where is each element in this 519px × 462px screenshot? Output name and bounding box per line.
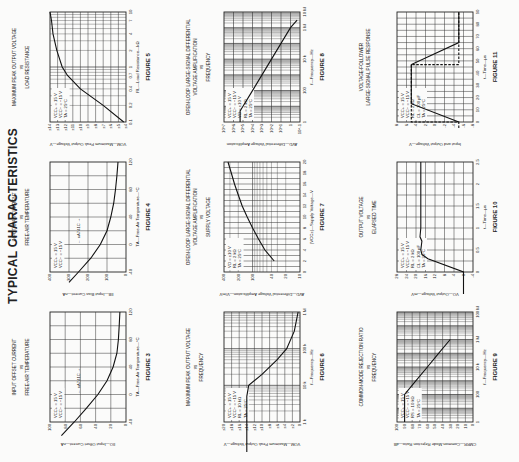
svg-text:1: 1 [128, 65, 133, 68]
svg-text:±6: ±6 [275, 423, 280, 428]
svg-text:IIO—Input Offset Current—nA: IIO—Input Offset Current—nA [60, 442, 115, 447]
svg-text:40: 40 [128, 364, 133, 369]
svg-text:COMMON-MODE REJECTION RATIO: COMMON-MODE REJECTION RATIO [359, 327, 364, 406]
svg-text:16: 16 [302, 181, 307, 186]
svg-text:16: 16 [423, 273, 428, 278]
svg-text:12: 12 [432, 273, 437, 278]
svg-text:0: 0 [475, 270, 480, 273]
svg-text:2: 2 [302, 259, 307, 262]
svg-text:14: 14 [302, 192, 307, 197]
svg-text:AVD—Differential Voltage Ampli: AVD—Differential Voltage Amplification—V… [219, 292, 304, 297]
svg-text:±9: ±9 [85, 123, 90, 128]
svg-text:0.1: 0.1 [128, 118, 133, 124]
svg-text:10 k: 10 k [302, 54, 307, 63]
svg-text:80: 80 [475, 21, 480, 26]
svg-text:0.4: 0.4 [128, 85, 133, 91]
svg-text:40: 40 [128, 214, 133, 219]
figure-10: OUTPUT VOLTAGEvsELAPSED TIME00.511.522.5… [355, 152, 505, 302]
svg-text:TA—Free-Air Temperature—°C: TA—Free-Air Temperature—°C [135, 187, 140, 246]
svg-text:20: 20 [455, 423, 460, 428]
svg-text:10^2: 10^2 [269, 123, 274, 133]
svg-text:7: 7 [128, 19, 133, 22]
svg-text:OPEN-LOOP LARGE-SIGNAL DIFFERE: OPEN-LOOP LARGE-SIGNAL DIFFERENTIAL [186, 168, 191, 265]
svg-text:vs: vs [199, 64, 204, 69]
svg-text:1: 1 [475, 420, 480, 423]
svg-text:VO—Output Voltage—mV: VO—Output Voltage—mV [411, 292, 459, 297]
svg-text:20: 20 [108, 423, 113, 428]
svg-text:28: 28 [394, 273, 399, 278]
svg-text:FIGURE 3: FIGURE 3 [145, 353, 151, 381]
svg-text:CMRR—Common-Mode Rejection Rat: CMRR—Common-Mode Rejection Ratio—dB [393, 442, 476, 447]
svg-text:OUTPUT VOLTAGE: OUTPUT VOLTAGE [359, 196, 364, 237]
svg-text:← uA741C →: ← uA741C → [76, 218, 81, 244]
svg-text:VOM—Maximum Peak Output Voltag: VOM—Maximum Peak Output Voltage—V [49, 142, 126, 147]
svg-text:12: 12 [302, 203, 307, 208]
svg-text:VCC− = −15 V: VCC− = −15 V [58, 391, 63, 418]
svg-text:100: 100 [47, 423, 52, 431]
svg-text:0: 0 [475, 120, 480, 123]
svg-text:t—Time—μs: t—Time—μs [482, 205, 487, 229]
svg-text:vs: vs [199, 214, 204, 219]
svg-text:4: 4 [302, 248, 307, 251]
svg-text:vs: vs [19, 364, 24, 369]
svg-text:20: 20 [283, 273, 288, 278]
svg-text:f—Frequency—Hz: f—Frequency—Hz [309, 49, 314, 84]
svg-text:90: 90 [402, 423, 407, 428]
svg-text:← uA741C →: ← uA741C → [76, 368, 81, 394]
svg-text:±13: ±13 [55, 123, 60, 131]
figure-8: OPEN-LOOP LARGE-SIGNAL DIFFERENTIALVOLTA… [182, 2, 332, 152]
svg-text:INPUT BIAS CURRENT: INPUT BIAS CURRENT [12, 192, 17, 241]
svg-text:4: 4 [413, 123, 418, 126]
svg-text:120: 120 [128, 308, 133, 316]
svg-text:FIGURE 9: FIGURE 9 [492, 353, 498, 381]
svg-text:1: 1 [288, 123, 293, 126]
svg-text:2: 2 [128, 49, 133, 52]
svg-text:±16: ±16 [237, 423, 242, 431]
svg-text:FIGURE 8: FIGURE 8 [319, 53, 325, 81]
svg-text:80: 80 [410, 423, 415, 428]
svg-text:10^4: 10^4 [250, 123, 255, 133]
svg-text:-40: -40 [128, 418, 133, 425]
svg-text:1 M: 1 M [302, 308, 307, 315]
figure-3: INPUT OFFSET CURRENTvsFREE-AIR TEMPERATU… [8, 302, 158, 452]
svg-text:24: 24 [404, 273, 409, 278]
svg-text:f—Frequency—Hz: f—Frequency—Hz [482, 349, 487, 384]
svg-text:80: 80 [128, 187, 133, 192]
figure-11: VOLTAGE-FOLLOWERLARGE-SIGNAL PULSE RESPO… [355, 2, 505, 152]
svg-text:10^1: 10^1 [278, 123, 283, 133]
svg-text:±5: ±5 [116, 123, 121, 128]
svg-text:1 M: 1 M [475, 335, 480, 342]
svg-text:VOLTAGE AMPLIFICATION: VOLTAGE AMPLIFICATION [193, 39, 198, 96]
svg-text:10: 10 [475, 107, 480, 112]
svg-text:6: 6 [302, 237, 307, 240]
svg-text:400: 400 [221, 273, 226, 281]
svg-text:±11: ±11 [70, 123, 75, 130]
svg-text:10 M: 10 M [302, 7, 307, 17]
svg-text:MAXIMUM PEAK OUTPUT VOLTAGE: MAXIMUM PEAK OUTPUT VOLTAGE [186, 328, 191, 406]
svg-text:100: 100 [394, 423, 399, 431]
svg-text:RL—Load Resistance—kΩ: RL—Load Resistance—kΩ [135, 40, 140, 92]
svg-text:LOAD RESISTANCE: LOAD RESISTANCE [25, 46, 30, 89]
svg-text:OPEN-LOOP LARGE-SIGNAL DIFFERE: OPEN-LOOP LARGE-SIGNAL DIFFERENTIAL [186, 18, 191, 115]
svg-text:INPUT OFFSET CURRENT: INPUT OFFSET CURRENT [12, 338, 17, 395]
svg-text:200: 200 [85, 273, 90, 281]
svg-text:100: 100 [250, 273, 255, 281]
svg-text:2.5: 2.5 [475, 158, 480, 164]
svg-text:SUPPLY VOLTAGE: SUPPLY VOLTAGE [206, 197, 211, 237]
svg-text:vs: vs [366, 214, 371, 219]
svg-text:10: 10 [128, 9, 133, 14]
svg-text:±2: ±2 [290, 423, 295, 428]
svg-text:±4: ±4 [282, 423, 287, 428]
svg-text:80: 80 [63, 423, 68, 428]
svg-text:40: 40 [475, 70, 480, 75]
svg-text:VCC− = −15 V: VCC− = −15 V [58, 241, 63, 268]
svg-text:±10: ±10 [78, 123, 83, 131]
svg-text:±4: ±4 [123, 123, 128, 128]
svg-text:VOM—Maximum Peak Output Voltag: VOM—Maximum Peak Output Voltage—V [223, 442, 300, 447]
svg-text:70: 70 [417, 423, 422, 428]
svg-text:10 k: 10 k [475, 362, 480, 371]
figure-4: INPUT BIAS CURRENTvsFREE-AIR TEMPERATURE… [8, 152, 158, 302]
svg-text:t—Time—μs: t—Time—μs [482, 55, 487, 79]
svg-text:TA = 25°C: TA = 25°C [237, 249, 242, 268]
svg-text:10^6: 10^6 [231, 123, 236, 133]
